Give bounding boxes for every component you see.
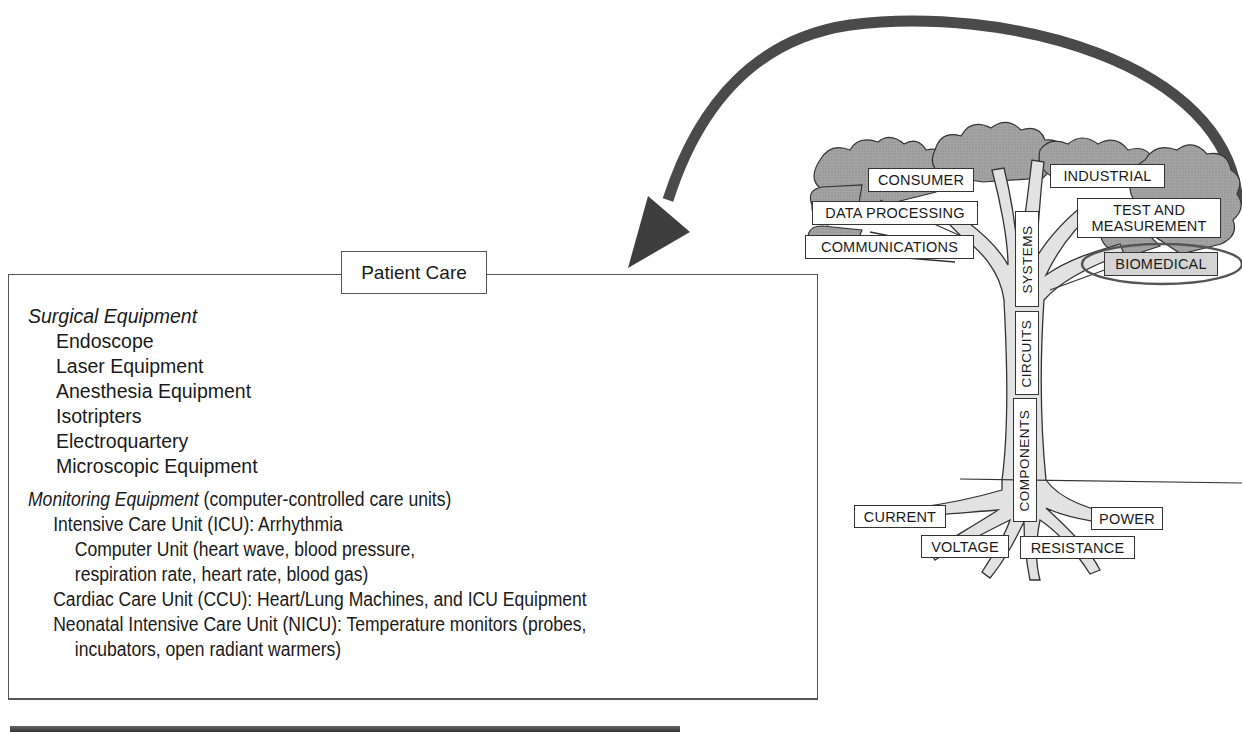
patient-care-title: Patient Care [341, 251, 487, 294]
monitoring-equipment-heading: Monitoring Equipment [28, 488, 199, 510]
monitoring-line: Computer Unit (heart wave, blood pressur… [28, 537, 811, 562]
surgical-equipment-heading: Surgical Equipment [28, 304, 818, 329]
label-test-and-measurement: TEST AND MEASUREMENT [1077, 198, 1221, 238]
monitoring-section: Monitoring Equipment (computer-controlle… [28, 487, 811, 662]
label-systems: SYSTEMS [1015, 211, 1039, 307]
label-consumer: CONSUMER [868, 168, 974, 192]
label-communications: COMMUNICATIONS [805, 235, 974, 259]
surgical-item: Endoscope [28, 329, 818, 354]
label-voltage: VOLTAGE [921, 535, 1009, 558]
monitoring-heading-line: Monitoring Equipment (computer-controlle… [28, 487, 811, 512]
monitoring-line: incubators, open radiant warmers) [28, 637, 811, 662]
label-test-and-measurement-line1: TEST AND [1113, 202, 1185, 218]
label-test-and-measurement-line2: MEASUREMENT [1092, 218, 1207, 234]
surgical-item: Microscopic Equipment [28, 454, 818, 479]
monitoring-line: Intensive Care Unit (ICU): Arrhythmia [28, 512, 811, 537]
label-components: COMPONENTS [1013, 398, 1037, 522]
label-current: CURRENT [854, 505, 946, 528]
monitoring-line: Cardiac Care Unit (CCU): Heart/Lung Mach… [28, 587, 811, 612]
surgical-item: Isotripters [28, 404, 818, 429]
monitoring-line: respiration rate, heart rate, blood gas) [28, 562, 811, 587]
label-power: POWER [1091, 507, 1163, 530]
surgical-item: Anesthesia Equipment [28, 379, 818, 404]
label-biomedical: BIOMEDICAL [1104, 252, 1218, 276]
patient-care-content: Surgical Equipment Endoscope Laser Equip… [28, 304, 818, 662]
surgical-item: Electroquartery [28, 429, 818, 454]
monitoring-heading-note: (computer-controlled care units) [199, 488, 452, 510]
monitoring-line: Neonatal Intensive Care Unit (NICU): Tem… [28, 612, 811, 637]
surgical-item: Laser Equipment [28, 354, 818, 379]
label-resistance: RESISTANCE [1020, 536, 1135, 559]
bottom-dark-strip [10, 726, 680, 732]
label-data-processing: DATA PROCESSING [812, 201, 978, 225]
label-industrial: INDUSTRIAL [1050, 164, 1165, 188]
label-circuits: CIRCUITS [1015, 311, 1039, 395]
